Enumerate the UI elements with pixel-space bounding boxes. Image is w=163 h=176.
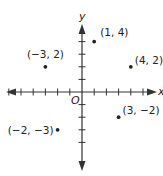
point-marker — [56, 128, 60, 132]
x-axis: x — [6, 85, 163, 98]
y-axis: y — [78, 10, 86, 171]
data-point: (−3, 2) — [27, 48, 64, 69]
data-point: (4, 2) — [129, 54, 163, 69]
point-label: (3, −2) — [123, 104, 160, 116]
y-axis-up-arrow-icon — [79, 24, 86, 34]
point-marker — [129, 65, 133, 69]
data-point: (3, −2) — [117, 104, 160, 119]
point-label: (−3, 2) — [27, 48, 64, 60]
data-point: (−2, −3) — [8, 124, 60, 136]
origin-label: O — [71, 94, 80, 107]
point-marker — [117, 115, 121, 119]
point-label: (1, 4) — [100, 26, 128, 38]
point-marker — [92, 40, 96, 44]
y-axis-down-arrow-icon — [79, 161, 86, 171]
data-points: (1, 4)(−3, 2)(4, 2)(3, −2)(−2, −3) — [8, 26, 163, 136]
x-axis-label: x — [157, 85, 163, 98]
point-marker — [44, 65, 48, 69]
y-axis-label: y — [78, 10, 86, 23]
point-label: (−2, −3) — [8, 124, 54, 136]
coordinate-plane: x y O (1, 4)(−3, 2)(4, 2)(3, −2)(−2, −3) — [0, 0, 163, 176]
x-axis-left-arrow-icon — [6, 89, 16, 96]
point-label: (4, 2) — [135, 54, 163, 66]
data-point: (1, 4) — [92, 26, 128, 44]
x-axis-right-arrow-icon — [147, 89, 157, 96]
